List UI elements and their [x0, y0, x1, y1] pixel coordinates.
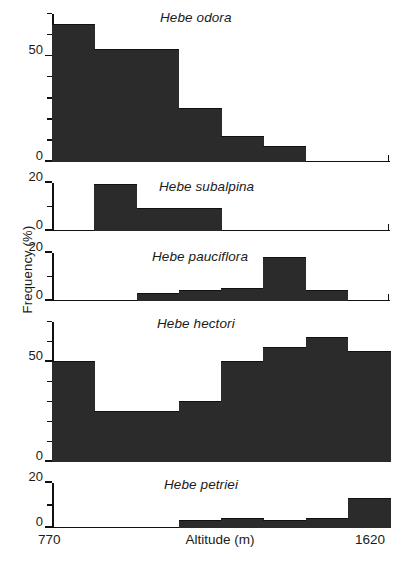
histogram-bar: [348, 498, 391, 528]
histogram-bar: [52, 24, 95, 162]
panel-title-5: Hebe petriei: [164, 477, 238, 492]
y-axis-label: Frequency (%): [20, 195, 35, 345]
y-tick-label: 50: [29, 43, 43, 56]
histogram-bar: [179, 108, 222, 162]
panel-hebe-odora: 050 Hebe odora: [52, 14, 390, 162]
y-tick: [45, 299, 52, 301]
y-tick-label: 50: [29, 349, 43, 362]
x-axis-min-label: 770: [38, 532, 61, 547]
y-tick-label: 0: [36, 515, 43, 528]
panel-hebe-petriei: 020 Hebe petriei: [52, 483, 390, 528]
plot-area-4: 050: [52, 322, 390, 462]
y-tick-label: 20: [29, 470, 43, 483]
y-tick: [45, 55, 52, 57]
panel-hebe-pauciflora: 020 Hebe pauciflora: [52, 253, 390, 301]
y-tick: [45, 526, 52, 528]
panel-hebe-hectori: 050 Hebe hectori: [52, 322, 390, 462]
y-tick-label: 0: [36, 149, 43, 162]
bars-4: [52, 322, 390, 462]
histogram-bar: [179, 401, 222, 462]
y-tick-label: 0: [36, 288, 43, 301]
bars-1: [52, 14, 390, 162]
y-tick-label: 0: [36, 449, 43, 462]
histogram-bar: [52, 361, 95, 462]
histogram-bar: [179, 208, 222, 231]
histogram-bar: [221, 136, 264, 162]
y-tick-label: 20: [29, 170, 43, 183]
plot-area-1: 050: [52, 14, 390, 162]
histogram-bar: [263, 520, 306, 528]
histogram-bar: [137, 208, 180, 231]
histogram-bar: [306, 290, 349, 301]
panel-title-3: Hebe pauciflora: [152, 249, 248, 264]
y-tick: [45, 251, 52, 253]
figure-hebe-altitude-histograms: Frequency (%) 050 Hebe odora 020 Hebe su…: [0, 0, 416, 562]
histogram-bar: [94, 184, 137, 231]
histogram-bar: [137, 411, 180, 462]
histogram-bar: [94, 411, 137, 462]
x-axis-title: Altitude (m): [150, 532, 290, 547]
histogram-bar: [94, 49, 137, 162]
histogram-bar: [348, 351, 391, 462]
histogram-bar: [263, 257, 306, 301]
y-tick: [45, 229, 52, 231]
panel-title-1: Hebe odora: [160, 10, 232, 25]
histogram-bar: [221, 288, 264, 301]
histogram-bar: [306, 518, 349, 528]
panel-title-4: Hebe hectori: [157, 316, 235, 331]
y-tick-label: 20: [29, 240, 43, 253]
histogram-bar: [179, 520, 222, 528]
y-tick: [45, 181, 52, 183]
histogram-bar: [263, 146, 306, 162]
histogram-bar: [263, 347, 306, 462]
histogram-bar: [137, 293, 180, 301]
panel-hebe-subalpina: 020 Hebe subalpina: [52, 183, 390, 231]
y-tick: [45, 160, 52, 162]
y-tick-label: 0: [36, 218, 43, 231]
histogram-bar: [179, 290, 222, 301]
histogram-bar: [221, 361, 264, 462]
y-tick: [45, 460, 52, 462]
y-tick: [45, 360, 52, 362]
histogram-bar: [306, 337, 349, 462]
histogram-bar: [137, 49, 180, 162]
panel-title-2: Hebe subalpina: [159, 179, 254, 194]
histogram-bar: [221, 518, 264, 528]
y-tick: [45, 481, 52, 483]
x-axis-max-label: 1620: [355, 532, 385, 547]
